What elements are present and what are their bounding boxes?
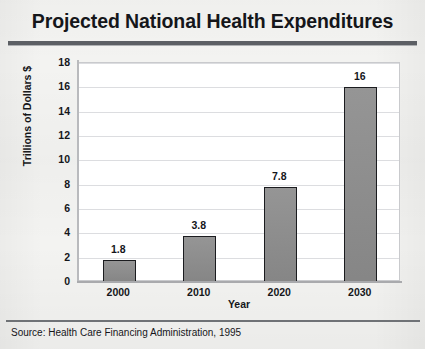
y-axis-line <box>77 60 79 283</box>
bar-value-label: 1.8 <box>88 243 148 255</box>
x-tick-label: 2020 <box>249 286 309 298</box>
bar <box>264 187 297 282</box>
bar-value-label: 7.8 <box>249 170 309 182</box>
bar <box>103 260 136 282</box>
bar-value-label: 3.8 <box>169 219 229 231</box>
x-tick-label: 2000 <box>88 286 148 298</box>
y-tick-label: 10 <box>44 154 70 164</box>
y-tick-label: 4 <box>44 227 70 237</box>
y-tick-label: 6 <box>44 203 70 213</box>
title-divider <box>8 41 417 45</box>
x-tick-label: 2010 <box>169 286 229 298</box>
bar <box>183 236 216 282</box>
y-tick-label: 12 <box>44 130 70 140</box>
y-tick-label: 18 <box>44 57 70 67</box>
y-tick-label: 16 <box>44 81 70 91</box>
gridline <box>79 63 399 64</box>
x-tick-label: 2030 <box>330 286 390 298</box>
y-tick-label: 14 <box>44 106 70 116</box>
y-tick-label: 2 <box>44 252 70 262</box>
x-axis-line <box>77 281 402 283</box>
y-tick-label: 0 <box>44 276 70 286</box>
y-axis-title: Trillions of Dollars $ <box>21 36 33 196</box>
page-title: Projected National Health Expenditures <box>0 10 425 33</box>
footer-divider <box>6 320 420 322</box>
bar <box>344 87 377 282</box>
y-tick-label: 8 <box>44 179 70 189</box>
source-note: Source: Health Care Financing Administra… <box>11 327 241 338</box>
x-axis-title: Year <box>78 298 400 310</box>
bar-value-label: 16 <box>330 70 390 82</box>
